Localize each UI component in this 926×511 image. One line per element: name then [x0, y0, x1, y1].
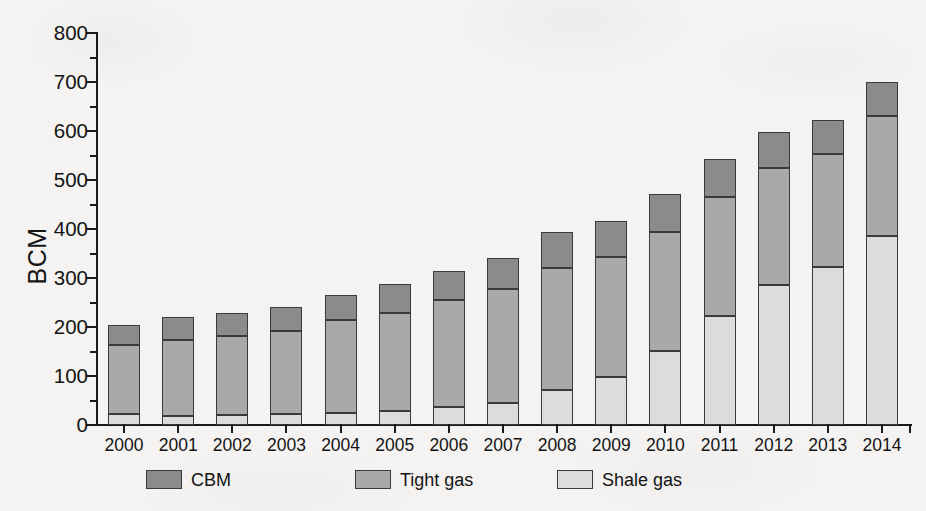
- legend-label: Shale gas: [602, 471, 682, 489]
- x-axis-tick-label: 2009: [592, 437, 631, 455]
- bar-segment[interactable]: [487, 289, 519, 403]
- x-axis-tick: [448, 424, 450, 433]
- bar-segment[interactable]: [866, 116, 898, 236]
- x-axis-tick: [502, 424, 504, 433]
- bar-segment[interactable]: [812, 120, 844, 153]
- bar-segment[interactable]: [541, 232, 573, 268]
- bar-segment[interactable]: [379, 284, 411, 313]
- x-axis-tick: [719, 424, 721, 433]
- bar-segment[interactable]: [866, 82, 898, 116]
- bar-group[interactable]: [216, 33, 248, 425]
- bar-segment[interactable]: [812, 267, 844, 425]
- legend-label: Tight gas: [400, 471, 473, 489]
- bar-segment[interactable]: [433, 300, 465, 407]
- x-axis-tick-label: 2008: [538, 437, 577, 455]
- bar-segment[interactable]: [325, 295, 357, 320]
- bar-segment[interactable]: [541, 268, 573, 390]
- bar-segment[interactable]: [270, 331, 302, 414]
- y-axis-tick-label: 400: [54, 219, 88, 240]
- y-axis-tick-label: 0: [77, 415, 88, 436]
- bar-segment[interactable]: [108, 345, 140, 415]
- bar-segment[interactable]: [433, 271, 465, 300]
- stacked-bar-chart: BCM 0100200300400500600700800 2000200120…: [0, 0, 926, 511]
- y-axis-tick-label: 800: [54, 23, 88, 43]
- bar-segment[interactable]: [649, 232, 681, 351]
- plot-area: 0100200300400500600700800: [97, 33, 909, 425]
- bar-segment[interactable]: [595, 377, 627, 426]
- bar-segment[interactable]: [704, 197, 736, 316]
- bar-group[interactable]: [162, 33, 194, 425]
- bar-segment[interactable]: [812, 154, 844, 268]
- bar-group[interactable]: [379, 33, 411, 425]
- y-axis-minor-tick: [90, 204, 97, 206]
- bar-segment[interactable]: [758, 168, 790, 286]
- bar-segment[interactable]: [108, 325, 140, 345]
- bar-group[interactable]: [812, 33, 844, 425]
- bar-segment[interactable]: [379, 313, 411, 411]
- bar-group[interactable]: [541, 33, 573, 425]
- bar-segment[interactable]: [325, 320, 357, 413]
- bar-segment[interactable]: [216, 313, 248, 336]
- y-axis-minor-tick: [90, 57, 97, 59]
- y-axis-minor-tick: [90, 253, 97, 255]
- bar-group[interactable]: [433, 33, 465, 425]
- bar-group[interactable]: [270, 33, 302, 425]
- x-axis-tick-label: 2001: [159, 437, 198, 455]
- bar-segment[interactable]: [541, 390, 573, 425]
- x-axis-tick: [231, 424, 233, 433]
- bar-segment[interactable]: [649, 351, 681, 425]
- x-axis-tick: [285, 424, 287, 433]
- y-axis-tick-label: 200: [54, 317, 88, 338]
- chart-legend: CBMTight gasShale gas: [0, 466, 926, 511]
- y-axis-title: BCM: [23, 227, 52, 284]
- x-axis-tick-label: 2000: [105, 437, 144, 455]
- bar-segment[interactable]: [866, 236, 898, 425]
- x-axis-end-tick: [909, 424, 911, 433]
- x-axis-tick-label: 2007: [484, 437, 523, 455]
- x-axis-tick: [123, 424, 125, 433]
- x-axis-tick: [773, 424, 775, 433]
- legend-item[interactable]: Tight gas: [355, 470, 473, 489]
- bar-group[interactable]: [649, 33, 681, 425]
- legend-swatch: [355, 470, 391, 489]
- y-axis-tick-label: 300: [54, 268, 88, 289]
- bar-segment[interactable]: [704, 159, 736, 197]
- bar-group[interactable]: [108, 33, 140, 425]
- bar-segment[interactable]: [162, 317, 194, 340]
- bar-segment[interactable]: [595, 221, 627, 257]
- legend-swatch: [146, 470, 182, 489]
- bar-segment[interactable]: [433, 407, 465, 425]
- x-axis-tick: [664, 424, 666, 433]
- bar-segment[interactable]: [758, 285, 790, 425]
- bar-group[interactable]: [704, 33, 736, 425]
- bar-group[interactable]: [758, 33, 790, 425]
- x-axis-tick-label: 2004: [321, 437, 360, 455]
- bar-segment[interactable]: [758, 132, 790, 168]
- bar-segment[interactable]: [487, 403, 519, 425]
- y-axis-tick-label: 600: [54, 121, 88, 142]
- x-axis-tick: [177, 424, 179, 433]
- legend-item[interactable]: Shale gas: [557, 470, 682, 489]
- bar-group[interactable]: [866, 33, 898, 425]
- bar-segment[interactable]: [270, 307, 302, 331]
- bar-segment[interactable]: [216, 336, 248, 415]
- bar-group[interactable]: [325, 33, 357, 425]
- legend-item[interactable]: CBM: [146, 470, 231, 489]
- bar-segment[interactable]: [487, 258, 519, 289]
- bar-segment[interactable]: [162, 340, 194, 416]
- bar-segment[interactable]: [704, 316, 736, 425]
- x-axis-tick-label: 2010: [646, 437, 685, 455]
- x-axis-tick-label: 2014: [862, 437, 901, 455]
- bar-group[interactable]: [487, 33, 519, 425]
- bar-group[interactable]: [595, 33, 627, 425]
- y-axis-tick-label: 500: [54, 170, 88, 191]
- bar-segment[interactable]: [595, 257, 627, 377]
- bar-segment[interactable]: [649, 194, 681, 232]
- bar-segment[interactable]: [379, 411, 411, 425]
- x-axis-tick: [340, 424, 342, 433]
- legend-label: CBM: [191, 471, 231, 489]
- y-axis-tick-label: 700: [54, 72, 88, 93]
- x-axis-tick-label: 2003: [267, 437, 306, 455]
- x-axis-tick: [556, 424, 558, 433]
- x-axis-tick-label: 2002: [213, 437, 252, 455]
